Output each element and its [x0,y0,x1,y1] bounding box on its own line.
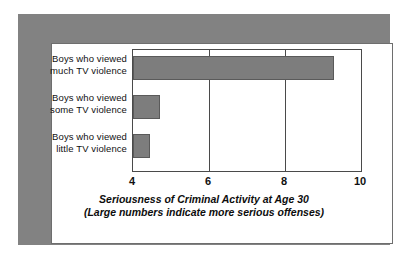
bar-chart: Boys who viewed much TV violence Boys wh… [33,29,375,230]
category-label-little: Boys who viewed little TV violence [17,131,127,154]
x-tick-10: 10 [354,175,366,187]
category-label-much-line2: much TV violence [50,65,127,76]
category-label-some-line2: some TV violence [50,104,127,115]
x-tick-4: 4 [129,175,135,187]
category-label-little-line1: Boys who viewed [52,131,127,142]
bar-row-little [133,134,150,158]
bar-much-tv-violence [133,56,334,80]
category-label-much-line1: Boys who viewed [52,53,127,64]
bar-some-tv-violence [133,95,160,119]
x-tick-8: 8 [281,175,287,187]
x-axis-title-line2: (Large numbers indicate more serious off… [33,206,375,219]
x-tick-6: 6 [205,175,211,187]
category-label-much: Boys who viewed much TV violence [17,53,127,76]
chart-figure: Boys who viewed much TV violence Boys wh… [0,0,410,261]
bar-little-tv-violence [133,134,150,158]
category-label-some: Boys who viewed some TV violence [17,92,127,115]
category-label-little-line2: little TV violence [56,143,127,154]
bar-row-some [133,95,160,119]
x-axis-title: Seriousness of Criminal Activity at Age … [33,193,375,219]
x-axis-title-line1: Seriousness of Criminal Activity at Age … [33,193,375,206]
x-axis-ticks: 4 6 8 10 [132,175,362,191]
bar-row-much [133,56,334,80]
plot-area [132,49,362,172]
category-label-some-line1: Boys who viewed [52,92,127,103]
